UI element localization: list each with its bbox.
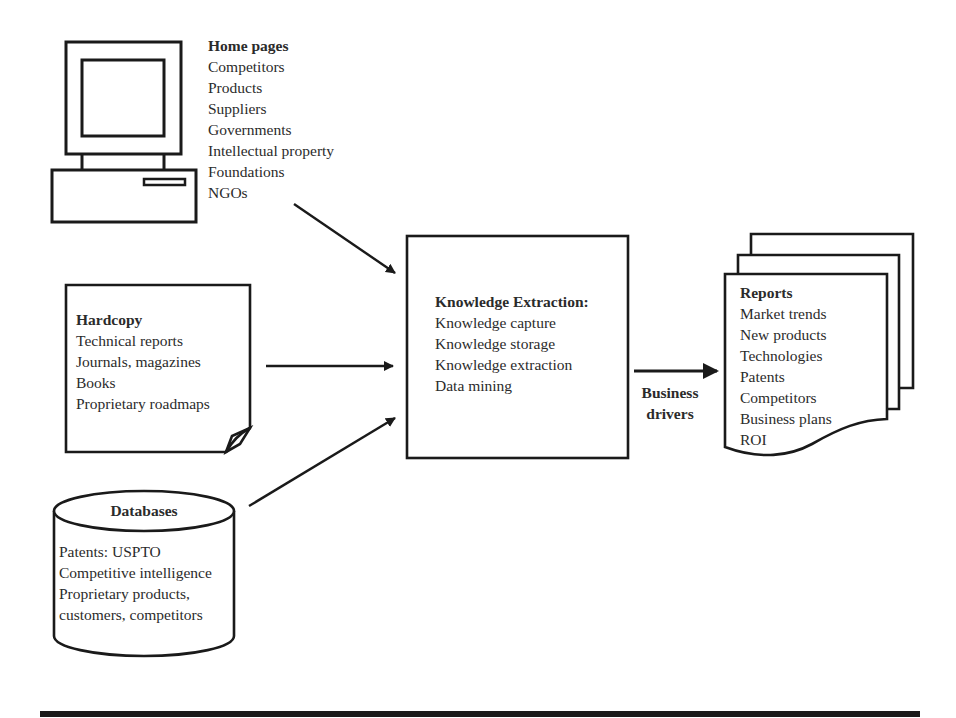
home-pages-item: Products <box>208 77 334 98</box>
computer-icon <box>52 42 196 222</box>
reports-title: Reports <box>740 282 832 303</box>
home-pages-list: Home pages Competitors Products Supplier… <box>208 35 334 203</box>
bottom-rule <box>40 711 920 717</box>
reports-item: New products <box>740 324 832 345</box>
home-pages-item: Competitors <box>208 56 334 77</box>
databases-item: Competitive intelligence <box>59 562 212 583</box>
home-pages-item: NGOs <box>208 182 334 203</box>
reports-item: Patents <box>740 366 832 387</box>
home-pages-item: Governments <box>208 119 334 140</box>
databases-item: Proprietary products, <box>59 583 212 604</box>
knowledge-extraction-item: Knowledge extraction <box>435 354 589 375</box>
knowledge-extraction-title: Knowledge Extraction: <box>435 291 589 312</box>
hardcopy-title: Hardcopy <box>76 309 210 330</box>
knowledge-extraction-item: Data mining <box>435 375 589 396</box>
hardcopy-item: Books <box>76 372 210 393</box>
business-drivers-label: Business drivers <box>630 382 710 424</box>
hardcopy-item: Technical reports <box>76 330 210 351</box>
databases-title: Databases <box>54 500 234 521</box>
reports-item: Competitors <box>740 387 832 408</box>
databases-list: Patents: USPTO Competitive intelligence … <box>59 541 212 625</box>
hardcopy-item: Proprietary roadmaps <box>76 393 210 414</box>
databases-item: customers, competitors <box>59 604 212 625</box>
reports-list: Reports Market trends New products Techn… <box>740 282 832 450</box>
hardcopy-list: Hardcopy Technical reports Journals, mag… <box>76 309 210 414</box>
hardcopy-item: Journals, magazines <box>76 351 210 372</box>
arrow-databases-to-extraction <box>249 418 395 506</box>
knowledge-extraction-item: Knowledge storage <box>435 333 589 354</box>
home-pages-item: Suppliers <box>208 98 334 119</box>
reports-item: Business plans <box>740 408 832 429</box>
arrow-home-pages-to-extraction <box>294 204 395 273</box>
knowledge-extraction-list: Knowledge Extraction: Knowledge capture … <box>435 291 589 396</box>
home-pages-title: Home pages <box>208 35 334 56</box>
business-drivers-line2: drivers <box>630 403 710 424</box>
knowledge-extraction-item: Knowledge capture <box>435 312 589 333</box>
home-pages-item: Intellectual property <box>208 140 334 161</box>
databases-item: Patents: USPTO <box>59 541 212 562</box>
reports-item: Market trends <box>740 303 832 324</box>
reports-item: Technologies <box>740 345 832 366</box>
business-drivers-line1: Business <box>630 382 710 403</box>
home-pages-item: Foundations <box>208 161 334 182</box>
reports-item: ROI <box>740 429 832 450</box>
